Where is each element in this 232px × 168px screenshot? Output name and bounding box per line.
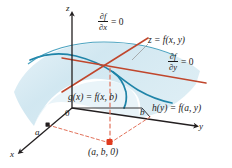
tick-label-b: b	[140, 108, 145, 117]
z-axis-label: z	[66, 4, 70, 13]
partial-x-numerator: ∂f	[99, 12, 108, 21]
point-coordinate-label: (a, b, 0)	[88, 148, 118, 158]
x-axis-label: x	[10, 150, 14, 159]
partial-x-denominator: ∂x	[98, 23, 108, 32]
annotation-partial-x: ∂f ∂x = 0	[98, 12, 123, 32]
trace-g-equation-label: g(x) = f(x, b)	[68, 93, 117, 103]
partial-y-equals-zero: = 0	[181, 57, 193, 67]
partial-y-numerator: ∂f	[169, 52, 178, 61]
y-axis-label: y	[199, 122, 203, 131]
trace-h-equation-label: h(y) = f(a, y)	[152, 104, 201, 114]
partial-derivative-critical-point-figure: z x y 0 a b ∂f ∂x = 0 ∂f ∂y = 0 z = f(x,…	[0, 0, 232, 168]
origin-label: 0	[65, 109, 70, 118]
surface-equation-label: z = f(x, y)	[148, 36, 185, 46]
partial-y-fraction: ∂f ∂y	[168, 52, 178, 72]
tick-label-a: a	[35, 128, 40, 137]
annotation-partial-y: ∂f ∂y = 0	[168, 52, 193, 72]
partial-y-denominator: ∂y	[168, 63, 178, 72]
partial-x-fraction: ∂f ∂x	[98, 12, 108, 32]
point-marker-abo	[107, 139, 113, 145]
projection-dashed-lines	[48, 117, 150, 143]
a-tick-marker	[46, 123, 50, 127]
partial-x-equals-zero: = 0	[111, 17, 123, 27]
